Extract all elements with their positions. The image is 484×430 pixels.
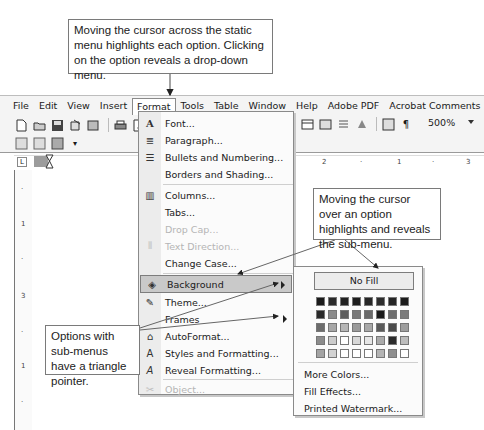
insert-excel-icon[interactable]: [300, 118, 314, 131]
ruler-tick: ·: [360, 158, 362, 166]
color-swatch[interactable]: [316, 297, 325, 306]
menu-adobe-pdf[interactable]: Adobe PDF: [323, 98, 385, 113]
color-swatch[interactable]: [400, 336, 409, 345]
menu-item-theme[interactable]: ✎ Theme...: [139, 293, 293, 311]
color-swatch[interactable]: [388, 336, 397, 345]
open-folder-icon[interactable]: [32, 119, 46, 132]
color-swatch[interactable]: [364, 336, 373, 345]
color-swatch[interactable]: [328, 310, 337, 319]
menu-item-columns[interactable]: ▥ Columns...: [139, 186, 293, 204]
toolbar-separator: [376, 117, 377, 131]
color-swatch[interactable]: [352, 336, 361, 345]
color-swatch[interactable]: [340, 349, 349, 358]
menu-edit[interactable]: Edit: [34, 98, 62, 113]
indent-marker-icon[interactable]: [45, 154, 55, 170]
menu-item-background[interactable]: ◈ Background: [140, 275, 292, 293]
zoom-field[interactable]: 500%: [428, 117, 455, 128]
color-swatch[interactable]: [316, 323, 325, 332]
menu-item-label: Columns...: [165, 190, 215, 201]
document-map-icon[interactable]: [354, 118, 368, 131]
color-swatch[interactable]: [364, 297, 373, 306]
color-swatch[interactable]: [352, 297, 361, 306]
form-icon[interactable]: [50, 137, 64, 150]
color-swatch[interactable]: [400, 310, 409, 319]
color-swatch[interactable]: [388, 310, 397, 319]
columns-icon: ▥: [143, 188, 157, 202]
color-swatch[interactable]: [328, 297, 337, 306]
tab-selector[interactable]: L: [17, 157, 27, 167]
no-fill-button[interactable]: No Fill: [314, 272, 414, 290]
color-swatch[interactable]: [328, 323, 337, 332]
menu-item-change-case[interactable]: Change Case...: [139, 254, 293, 272]
menu-item-borders-shading[interactable]: Borders and Shading...: [139, 165, 293, 183]
color-swatch[interactable]: [352, 323, 361, 332]
menu-item-tabs[interactable]: Tabs...: [139, 203, 293, 221]
color-swatch[interactable]: [316, 336, 325, 345]
color-swatch[interactable]: [328, 349, 337, 358]
menu-item-fill-effects[interactable]: Fill Effects...: [304, 386, 361, 397]
color-swatch[interactable]: [376, 349, 385, 358]
vruler-tick: 1: [21, 220, 25, 228]
color-swatch[interactable]: [328, 336, 337, 345]
menu-item-printed-watermark[interactable]: Printed Watermark...: [304, 403, 402, 414]
menu-item-more-colors[interactable]: More Colors...: [304, 369, 369, 380]
styles-icon: A: [143, 346, 157, 360]
color-swatch[interactable]: [376, 336, 385, 345]
drawing-icon[interactable]: [336, 118, 350, 131]
calendar-icon[interactable]: [14, 137, 28, 150]
menu-item-font[interactable]: A Font...: [139, 114, 293, 132]
color-swatch[interactable]: [352, 349, 361, 358]
read-icon[interactable]: [381, 118, 395, 131]
color-swatch[interactable]: [340, 336, 349, 345]
menu-item-object[interactable]: ✂ Object...: [139, 380, 293, 398]
permission-icon[interactable]: [68, 119, 82, 132]
menu-item-reveal-formatting[interactable]: A Reveal Formatting...: [139, 361, 293, 379]
menu-item-label: Styles and Formatting...: [165, 348, 279, 359]
color-swatch[interactable]: [340, 310, 349, 319]
ruler-tick: 1: [397, 158, 401, 166]
menu-item-drop-cap[interactable]: Drop Cap...: [139, 220, 293, 238]
menu-acrobat-comments[interactable]: Acrobat Comments: [384, 98, 484, 113]
color-swatch[interactable]: [376, 297, 385, 306]
menu-file[interactable]: File: [8, 98, 34, 113]
menu-item-label: Borders and Shading...: [165, 169, 273, 180]
color-swatch[interactable]: [352, 310, 361, 319]
color-swatch[interactable]: [400, 323, 409, 332]
color-swatch[interactable]: [400, 349, 409, 358]
print-icon[interactable]: [113, 119, 127, 132]
columns-toolbar-icon[interactable]: [318, 118, 332, 131]
color-swatch[interactable]: [316, 349, 325, 358]
email-icon[interactable]: [86, 119, 100, 132]
calendar-alt-icon[interactable]: [32, 137, 46, 150]
menu-item-frames[interactable]: Frames: [139, 310, 293, 328]
menu-item-text-direction[interactable]: ⫴ Text Direction...: [139, 237, 293, 255]
menu-help[interactable]: Help: [291, 98, 323, 113]
color-swatch[interactable]: [364, 323, 373, 332]
toolbar-options-icon[interactable]: ▾: [68, 137, 82, 150]
color-swatch[interactable]: [316, 310, 325, 319]
color-swatch[interactable]: [388, 323, 397, 332]
menu-item-styles-formatting[interactable]: A Styles and Formatting...: [139, 344, 293, 362]
save-icon[interactable]: [50, 119, 64, 132]
color-swatch[interactable]: [340, 323, 349, 332]
color-swatch[interactable]: [376, 310, 385, 319]
menu-item-label: Font...: [165, 118, 195, 129]
new-document-icon[interactable]: [14, 119, 28, 132]
color-swatch[interactable]: [340, 297, 349, 306]
menu-item-paragraph[interactable]: ≣ Paragraph...: [139, 131, 293, 149]
color-swatch[interactable]: [376, 323, 385, 332]
color-swatch[interactable]: [400, 297, 409, 306]
color-swatch[interactable]: [364, 349, 373, 358]
menu-item-bullets-numbering[interactable]: ☰ Bullets and Numbering...: [139, 148, 293, 166]
ruler-tick: 2: [322, 158, 326, 166]
menu-item-label: Theme...: [165, 297, 207, 308]
menu-insert[interactable]: Insert: [95, 98, 132, 113]
color-swatch[interactable]: [364, 310, 373, 319]
color-swatch[interactable]: [388, 297, 397, 306]
color-swatch[interactable]: [388, 349, 397, 358]
menu-view[interactable]: View: [62, 98, 95, 113]
menu-item-autoformat[interactable]: ⌂ AutoFormat...: [139, 327, 293, 345]
zoom-dropdown-icon[interactable]: [468, 120, 474, 124]
show-hide-icon[interactable]: ¶: [399, 118, 413, 131]
ruler-tick: 3: [466, 158, 470, 166]
